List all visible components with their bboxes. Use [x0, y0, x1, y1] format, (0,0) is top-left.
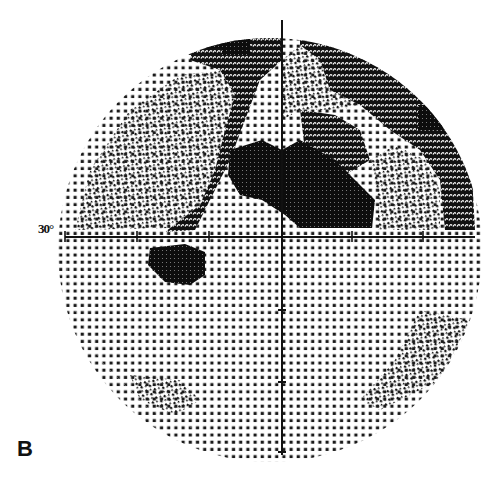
visual-field-map — [0, 0, 501, 479]
top-center-dense-block — [222, 20, 262, 35]
eccentricity-label: 30° — [38, 221, 53, 237]
field-regions — [0, 20, 501, 479]
panel-label: B — [17, 436, 33, 462]
right-dense-block — [418, 105, 455, 130]
